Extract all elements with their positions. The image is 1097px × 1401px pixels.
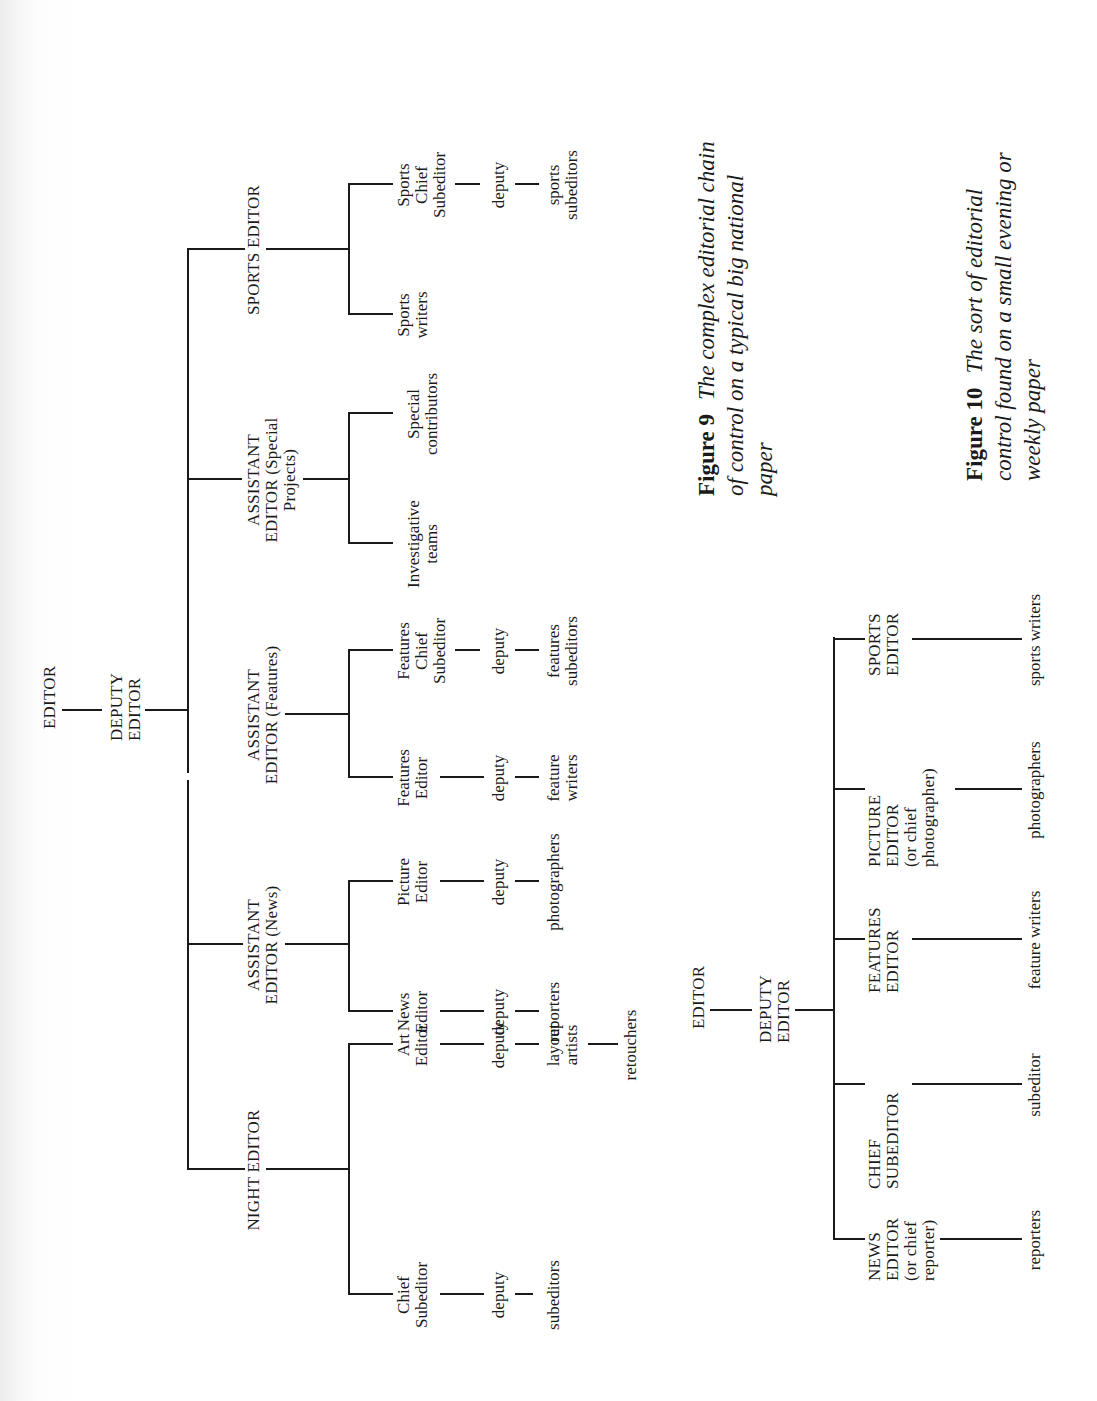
fig9-sports-writers-l1: Sports <box>395 291 413 338</box>
fig9-conn <box>440 1293 484 1295</box>
fig10-staff-conn <box>940 1238 1022 1240</box>
fig10-editor-connector <box>710 1009 752 1011</box>
fig9-node-investigative-teams: Investigative teams <box>405 500 441 588</box>
fig9-conn <box>440 1043 484 1045</box>
fig9-deputy-connector <box>145 709 187 711</box>
fig9-sports-chief-l3: Subeditor <box>431 152 449 218</box>
fig10-node-sports-editor: SPORTS EDITOR <box>866 613 902 676</box>
fig9-conn <box>515 1010 539 1012</box>
fig9-features-subs-l1: features <box>545 616 563 686</box>
fig9-node-sports-chief-subeditor: Sports Chief Subeditor <box>395 152 449 218</box>
fig9-conn <box>440 1010 484 1012</box>
fig10-deputy-l1: DEPUTY <box>757 975 775 1043</box>
fig9-features-chief-drop <box>348 649 393 651</box>
fig10-chief-l2: SUBEDITOR <box>884 1092 902 1189</box>
fig9-assistant-special-title3: Projects) <box>281 418 299 543</box>
fig10-editor-node: EDITOR <box>690 966 708 1029</box>
fig9-special-bracket <box>348 414 350 544</box>
fig10-deputy-editor-node: DEPUTY EDITOR <box>757 975 793 1043</box>
fig10-node-chief-subeditor: CHIEF SUBEDITOR <box>866 1092 902 1189</box>
fig9-node-news-editor: News Editor <box>395 991 431 1034</box>
fig9-chief-sub-l1: Chief <box>395 1262 413 1328</box>
fig9-node-deputy: deputy <box>490 162 508 208</box>
fig9-node-sports-subeditors: sports subeditors <box>545 150 581 220</box>
fig9-node-picture-editor: Picture Editor <box>395 858 431 906</box>
fig9-night-editor-stem <box>266 1168 348 1170</box>
fig9-node-retouchers: retouchers <box>622 1010 640 1081</box>
fig9-sports-chief-drop <box>348 183 393 185</box>
fig9-special-drop <box>187 478 242 480</box>
fig10-staff-conn <box>912 638 1022 640</box>
fig9-special-contrib-l2: contributors <box>423 373 441 455</box>
fig9-conn <box>440 776 484 778</box>
fig10-sports-l1: SPORTS <box>866 613 884 676</box>
fig10-drop-chief-sub <box>833 1083 865 1085</box>
fig9-assistant-news-title2: EDITOR (News) <box>263 886 281 1005</box>
figure-9-caption-line2: of control on a typical big national <box>723 175 748 496</box>
fig9-features-chief-l1: Features <box>395 618 413 684</box>
fig9-node-photographers: photographers <box>545 833 563 930</box>
fig9-feature-writers-l1: feature <box>545 754 563 801</box>
fig9-node-chief-subeditor: Chief Subeditor <box>395 1262 431 1328</box>
fig9-node-sports-writers: Sports writers <box>395 291 431 338</box>
fig9-assistant-features-title2: EDITOR (Features) <box>263 646 281 785</box>
fig9-investigative-l2: teams <box>423 500 441 588</box>
fig9-node-deputy: deputy <box>490 755 508 801</box>
fig9-node-feature-writers: feature writers <box>545 754 581 801</box>
fig9-news-ed-drop <box>348 1010 393 1012</box>
fig10-staff-conn <box>912 1083 1022 1085</box>
fig9-features-bracket <box>348 651 350 778</box>
fig10-news-l3: (or chief <box>902 1218 920 1281</box>
fig9-features-ed-l1: Features <box>395 749 413 807</box>
fig9-features-chief-l2: Chief <box>413 618 431 684</box>
fig9-branch-night-editor: NIGHT EDITOR <box>245 1109 263 1230</box>
fig10-staff-reporters: reporters <box>1026 1210 1044 1270</box>
fig9-branch-assistant-features: ASSISTANT EDITOR (Features) <box>245 646 281 785</box>
fig9-features-subs-l2: subeditors <box>563 616 581 686</box>
fig9-conn <box>515 649 539 651</box>
fig10-features-l1: FEATURES <box>866 907 884 993</box>
fig10-picture-l2: EDITOR <box>884 768 902 867</box>
fig10-deputy-l2: EDITOR <box>775 975 793 1043</box>
fig9-conn <box>455 183 480 185</box>
fig9-node-features-chief-subeditor: Features Chief Subeditor <box>395 618 449 684</box>
fig10-drop-news <box>833 1238 865 1240</box>
fig9-special-contrib-l1: Special <box>405 373 423 455</box>
fig9-editor-label: EDITOR <box>40 666 59 729</box>
fig9-node-special-contributors: Special contributors <box>405 373 441 455</box>
fig9-chief-sub-drop <box>348 1293 393 1295</box>
fig9-night-editor-title: NIGHT EDITOR <box>245 1109 263 1230</box>
fig9-features-stem <box>285 713 348 715</box>
fig10-news-l1: NEWS <box>866 1218 884 1281</box>
fig9-art-drop <box>348 1043 393 1045</box>
fig9-sports-drop <box>187 248 245 250</box>
fig9-conn <box>515 183 539 185</box>
fig10-staff-conn <box>955 788 1022 790</box>
fig9-news-ed-l2: Editor <box>413 991 431 1034</box>
fig10-staff-photographers: photographers <box>1026 741 1044 838</box>
fig9-trunk-left <box>187 780 189 1170</box>
figure-10-caption-line1: The sort of editorial <box>962 189 987 374</box>
fig9-picture-drop <box>348 880 393 882</box>
fig9-features-ed-l2: Editor <box>413 749 431 807</box>
figure-9-caption: Figure 9The complex editorial chain of c… <box>692 116 779 496</box>
figure-10-number: Figure 10 <box>962 388 987 481</box>
fig9-chief-sub-l2: Subeditor <box>413 1262 431 1328</box>
fig9-sports-editor-title: SPORTS EDITOR <box>245 185 263 315</box>
fig9-editor-node: EDITOR <box>41 666 59 729</box>
fig9-night-editor-drop <box>187 1168 245 1170</box>
fig9-deputy-editor-node: DEPUTY EDITOR <box>108 673 144 741</box>
fig10-news-l2: EDITOR <box>884 1218 902 1281</box>
fig9-conn <box>515 1293 533 1295</box>
fig9-sports-bracket <box>348 185 350 315</box>
fig10-drop-features <box>833 938 865 940</box>
fig10-picture-l4: photographer) <box>920 768 938 867</box>
fig10-sports-l2: EDITOR <box>884 613 902 676</box>
fig9-news-ed-l1: News <box>395 991 413 1034</box>
figure-9-number: Figure 9 <box>694 414 719 496</box>
fig10-node-features-editor: FEATURES EDITOR <box>866 907 902 993</box>
fig9-picture-l1: Picture <box>395 858 413 906</box>
figure-10-caption: Figure 10The sort of editorial control f… <box>960 101 1047 481</box>
fig9-deputy-line2: EDITOR <box>126 673 144 741</box>
fig10-deputy-connector <box>795 1009 833 1011</box>
